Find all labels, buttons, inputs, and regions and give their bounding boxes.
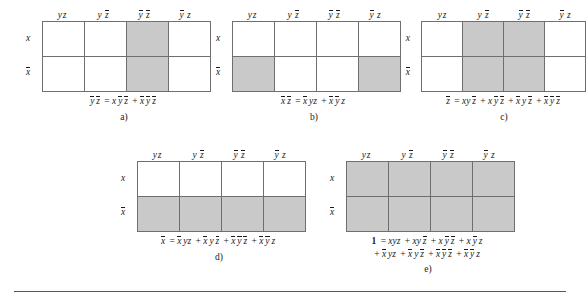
var-y: y [288,10,292,20]
column-header-label-1: y z [288,10,300,20]
kmap-cell-r1-c0[interactable] [138,197,180,232]
kmap-cell-r1-c3[interactable] [359,57,401,92]
grid-wrapper: x x [398,21,586,92]
kmap-cell-r0-c2[interactable] [504,22,545,57]
operator-8: + [506,96,516,106]
var-z: z [63,10,67,20]
kmap-row [347,162,515,197]
row-header-label-1: x [406,67,411,78]
var-complement-y: y [519,10,523,21]
var-complement-z: z [450,150,454,161]
kmap-cell-r1-c2[interactable] [504,57,545,92]
bottom-divider-rule [14,291,566,292]
column-header-label-1: y z [478,10,490,20]
literal-yz: yz [183,236,191,246]
kmap-cell-r1-c0[interactable] [43,57,85,92]
literal-xy: xy [413,236,421,246]
kmap-cell-r1-c3[interactable] [545,57,586,92]
kmap-cell-r0-c0[interactable] [233,22,275,57]
column-header-label-2: y z [329,10,341,20]
term-token-4: yz [309,96,319,106]
column-header-label-3: y z [484,150,496,160]
kmap-cell-r0-c2[interactable] [431,162,473,197]
kmap-cell-r0-c3[interactable] [545,22,586,57]
column-header-label-3: y z [370,10,382,20]
var-z: z [567,10,571,20]
kmap-row [43,22,211,57]
kmap-cell-r1-c1[interactable] [275,57,317,92]
kmap-cell-r1-c3[interactable] [264,197,306,232]
kmap-row [43,57,211,92]
var-complement-x: x [26,67,30,78]
literal-complement-x: x [259,236,263,247]
literal-complement-y: y [90,96,94,107]
kmap-cell-r0-c0[interactable] [347,162,389,197]
var-y: y [153,150,157,160]
kmap-cell-r0-c1[interactable] [85,22,127,57]
kmap-cell-r1-c2[interactable] [222,197,264,232]
kmap-cell-r1-c0[interactable] [422,57,463,92]
row-header-label-0: x [216,33,221,43]
var-complement-x: x [121,207,125,218]
var-z: z [187,10,191,20]
kmap-cell-r0-c1[interactable] [275,22,317,57]
map-a: y z y z y z y z x x y z = x y z + x y z … [18,6,211,122]
kmap-cell-r0-c3[interactable] [264,162,306,197]
kmap-cell-r1-c1[interactable] [85,57,127,92]
row-header-0: x [18,21,42,55]
kmap-cell-r0-c2[interactable] [127,22,169,57]
var-y: y [478,10,482,20]
grid-wrapper: x x [113,161,306,232]
literal-complement-z: z [556,96,560,107]
row-header-1: x [113,195,137,229]
kmap-cell-r1-c2[interactable] [431,197,473,232]
kmap-cell-r0-c2[interactable] [317,22,359,57]
map-e-kmap: y z y z y z y z x x [322,146,515,232]
literal-xy: xy [462,96,470,106]
kmap-cell-r0-c1[interactable] [389,162,431,197]
column-header-label-3: y z [180,10,192,20]
kmap-cell-r1-c3[interactable] [169,57,211,92]
kmap-cell-r1-c2[interactable] [317,57,359,92]
operator-12: + [534,96,544,106]
kmap-cell-r1-c0[interactable] [233,57,275,92]
kmap-cell-r1-c1[interactable] [463,57,504,92]
row-label-column: x x [322,161,346,232]
term-token-2: xyz [388,236,402,246]
kmap-cell-r0-c3[interactable] [169,22,211,57]
kmap-cell-r1-c2[interactable] [127,57,169,92]
var-y: y [438,10,442,20]
panel-letter-a: a) [42,112,206,122]
kmap-cell-r0-c3[interactable] [359,22,401,57]
term-token-14: z [476,249,482,259]
kmap-cell-r0-c0[interactable] [422,22,463,57]
kmap-grid [232,21,401,92]
literal-complement-x: x [464,249,468,260]
kmap-cell-r1-c1[interactable] [389,197,431,232]
row-label-column: x x [208,21,232,92]
literal-1: 1 [372,236,377,246]
kmap-row [138,197,306,232]
literal-complement-z: z [287,96,291,107]
column-header-1: y z [273,10,314,21]
var-complement-y: y [443,150,447,161]
kmap-cell-r0-c1[interactable] [180,162,222,197]
kmap-cell-r1-c3[interactable] [473,197,515,232]
var-z: z [253,10,257,20]
row-header-label-1: x [26,67,31,78]
kmap-cell-r0-c3[interactable] [473,162,515,197]
var-complement-y: y [180,10,184,21]
literal-complement-x: x [281,96,285,107]
literal-complement-z: z [446,96,450,107]
kmap-cell-r0-c0[interactable] [43,22,85,57]
var-complement-z: z [485,10,489,21]
kmap-cell-r0-c2[interactable] [222,162,264,197]
var-y: y [402,150,406,160]
row-header-0: x [113,161,137,195]
kmap-cell-r1-c0[interactable] [347,197,389,232]
kmap-cell-r0-c1[interactable] [463,22,504,57]
kmap-cell-r1-c1[interactable] [180,197,222,232]
kmap-cell-r0-c0[interactable] [138,162,180,197]
literal-complement-y: y [442,249,446,260]
row-header-label-0: x [406,33,411,43]
